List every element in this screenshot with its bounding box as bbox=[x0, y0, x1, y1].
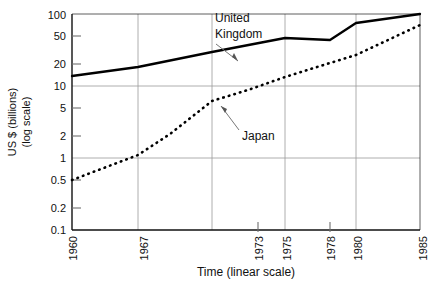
ytick-label-0.5: 0.5 bbox=[51, 174, 66, 186]
ytick-label-2: 2 bbox=[60, 130, 66, 142]
line-chart: United Kingdom Japan 100 50 20 10 5 2 1 … bbox=[0, 0, 439, 285]
ytick-label-10: 10 bbox=[54, 80, 66, 92]
xtick-label-1973: 1973 bbox=[253, 236, 265, 260]
chart-figure: United Kingdom Japan 100 50 20 10 5 2 1 … bbox=[0, 0, 439, 285]
xtick-label-1985: 1985 bbox=[417, 236, 429, 260]
y-axis-title-line2: (log scale) bbox=[20, 97, 32, 148]
ytick-label-1: 1 bbox=[60, 152, 66, 164]
series-annotation-uk-line2: Kingdom bbox=[215, 27, 262, 41]
xtick-label-1980: 1980 bbox=[352, 236, 364, 260]
y-axis-title-line1: US $ (billions) bbox=[6, 88, 18, 156]
series-annotation-uk-line1: United bbox=[215, 11, 250, 25]
ytick-label-0.1: 0.1 bbox=[51, 224, 66, 236]
xtick-label-1975: 1975 bbox=[281, 236, 293, 260]
x-axis-title: Time (linear scale) bbox=[197, 265, 295, 279]
ytick-label-100: 100 bbox=[48, 9, 66, 21]
ytick-label-20: 20 bbox=[54, 58, 66, 70]
xtick-label-1960: 1960 bbox=[67, 236, 79, 260]
xtick-label-1978: 1978 bbox=[325, 236, 337, 260]
ytick-label-5: 5 bbox=[60, 102, 66, 114]
series-annotation-japan: Japan bbox=[242, 129, 275, 143]
ytick-label-0.2: 0.2 bbox=[51, 202, 66, 214]
xtick-label-1967: 1967 bbox=[138, 236, 150, 260]
x-tick-labels: 1960 1967 1973 1975 1978 1980 1985 bbox=[67, 236, 429, 260]
y-tick-labels: 100 50 20 10 5 2 1 0.5 0.2 0.1 bbox=[48, 9, 66, 236]
ytick-label-50: 50 bbox=[54, 30, 66, 42]
